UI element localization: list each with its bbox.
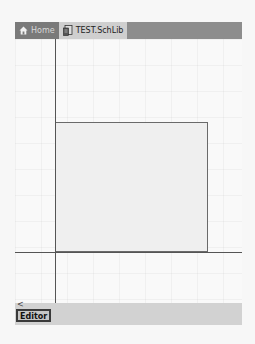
status-bar: < Editor: [15, 303, 242, 325]
editor-button[interactable]: Editor: [16, 309, 51, 322]
scroll-left-arrow-icon[interactable]: <: [17, 300, 24, 309]
schematic-canvas[interactable]: [15, 39, 242, 303]
component-body-rectangle[interactable]: [55, 122, 208, 252]
origin-vertical-axis: [55, 39, 56, 303]
tab-home-label: Home: [31, 26, 55, 35]
schlib-document-icon: [63, 25, 73, 36]
origin-horizontal-axis: [15, 252, 242, 253]
tab-test-schlib[interactable]: TEST.SchLib: [59, 22, 128, 39]
tab-home[interactable]: Home: [15, 22, 59, 39]
tab-test-schlib-label: TEST.SchLib: [76, 26, 124, 35]
home-icon: [19, 26, 28, 35]
document-tab-bar: Home TEST.SchLib: [15, 22, 242, 39]
